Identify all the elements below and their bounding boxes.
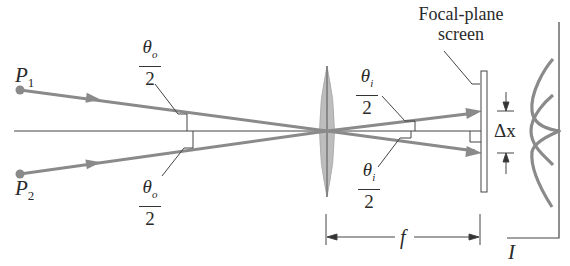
label-focal-length: f [400, 226, 406, 249]
angle-marker-object [155, 84, 193, 176]
right-angle-mark [470, 131, 481, 142]
screen-leader-line [444, 51, 480, 84]
label-focal-plane-screen: Focal-plane screen [401, 4, 521, 44]
label-p1: P1 [15, 63, 34, 91]
label-theta-o-half-top: θo 2 [135, 37, 165, 89]
ray-arrow-icon [465, 106, 482, 119]
label-intensity: I [508, 240, 515, 265]
label-delta-x: Δx [494, 120, 516, 142]
label-theta-o-half-bottom: θo 2 [135, 177, 165, 229]
label-theta-i-half-top: θi 2 [352, 66, 382, 118]
ray-arrow-icon [85, 93, 101, 105]
label-theta-i-half-bottom: θi 2 [354, 160, 384, 212]
focal-plane-screen [481, 71, 487, 192]
label-p2: P2 [15, 176, 34, 204]
ray-arrow-icon [465, 146, 482, 159]
intensity-curve-1 [532, 59, 559, 207]
